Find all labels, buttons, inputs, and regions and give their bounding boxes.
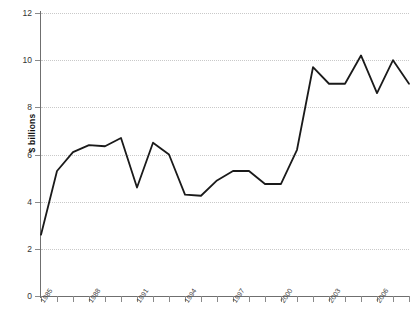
y-axis-tick [35, 249, 40, 250]
y-axis-tick [35, 13, 40, 14]
data-series-line [0, 0, 417, 326]
y-axis-tick [35, 296, 40, 297]
y-axis-tick [35, 60, 40, 61]
y-axis-tick [35, 155, 40, 156]
y-axis-tick [35, 202, 40, 203]
line-chart: $ billions 024681012 1985198819911994199… [0, 0, 417, 326]
y-axis-tick [35, 107, 40, 108]
